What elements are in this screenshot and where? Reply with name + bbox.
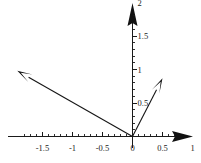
y-tick-label-y-1: 1 [138,65,142,74]
y-tick-label-y-2: 2 [138,0,142,7]
y-tick-label-y-0-5: 0.5 [138,99,149,108]
x-tick-label-x-neg-1-5: -1.5 [36,144,49,153]
x-axis-ticks [25,132,175,137]
vector-plot-figure: -1.5-1-0.500.51 0.511.52 [0,0,201,163]
vector-right-arrowhead-icon [152,78,163,93]
x-axis-arrowhead-icon [172,131,193,142]
vector-left-arrowhead-icon [17,71,32,82]
x-tick-label-x-0-5: 0.5 [157,144,168,153]
x-tick-label-x-neg-1: -1 [69,144,76,153]
x-tick-label-x-neg-0-5: -0.5 [96,144,109,153]
vector-left-shaft [29,77,133,136]
plot-canvas [0,0,201,163]
x-tick-label-x-0: 0 [130,144,134,153]
x-tick-label-x-1: 1 [190,144,194,153]
y-axis-ticks [133,16,138,137]
axes-group [8,10,191,148]
y-tick-label-y-1-5: 1.5 [138,32,149,41]
